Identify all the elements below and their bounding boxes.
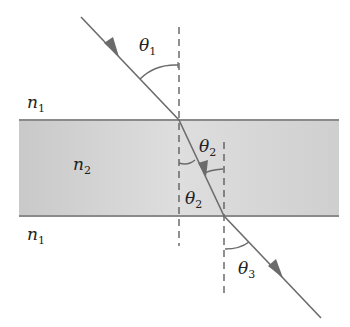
theta1-arc — [140, 65, 178, 79]
incident-ray — [81, 17, 179, 120]
theta3-label: θ3 — [238, 258, 255, 281]
refraction-diagram: n1 n2 n1 θ1 θ2 θ2 θ3 — [0, 0, 350, 327]
theta1-label: θ1 — [139, 35, 156, 58]
theta3-arc — [225, 242, 249, 249]
arrow-icon-emergent — [268, 259, 283, 278]
n1-bottom-label: n1 — [27, 224, 45, 247]
n1-top-label: n1 — [27, 92, 45, 115]
arrow-icon-incident — [104, 37, 119, 57]
